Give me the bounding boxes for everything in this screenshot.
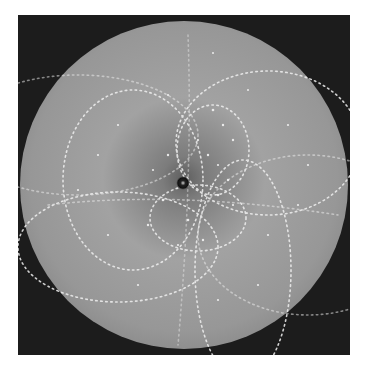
laue-pattern-image bbox=[18, 15, 350, 355]
diffraction-frame bbox=[18, 15, 350, 355]
beam-stop bbox=[176, 176, 190, 190]
